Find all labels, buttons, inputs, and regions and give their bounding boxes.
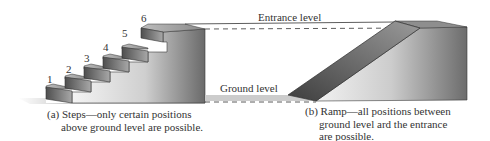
step-label-4: 4 <box>103 41 109 53</box>
ramp-caption-line-2: ground level ard the entrance <box>305 118 451 131</box>
entrance-level-label: Entrance level <box>258 11 321 23</box>
steps-caption-line-2: above ground level are possible. <box>47 121 203 134</box>
stairs-illustration <box>18 24 205 104</box>
ramp-caption: (b) Ramp—all positions between ground le… <box>305 105 451 141</box>
ground-level-label: Ground level <box>220 82 278 94</box>
step-label-1: 1 <box>47 73 53 85</box>
ramp-illustration <box>288 21 467 101</box>
steps-caption: (a) Steps—only certain positions above g… <box>47 108 203 133</box>
step-label-6: 6 <box>141 12 147 24</box>
step-label-3: 3 <box>84 52 90 64</box>
ramp-caption-line-1: (b) Ramp—all positions between <box>305 105 451 117</box>
ramp-caption-line-3: are possible. <box>305 130 451 141</box>
step-label-5: 5 <box>122 27 128 39</box>
step-1-riser <box>46 87 72 103</box>
step-label-2: 2 <box>66 63 72 75</box>
steps-caption-line-1: (a) Steps—only certain positions <box>47 108 192 120</box>
